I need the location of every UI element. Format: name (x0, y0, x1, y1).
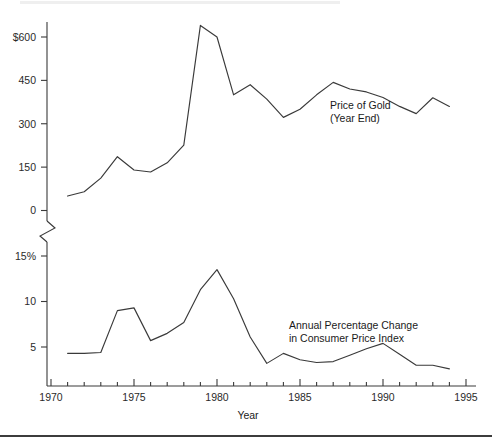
x-tick-label: 1990 (371, 391, 395, 403)
annotation-cpi-line1: Annual Percentage Change (289, 319, 418, 331)
y-tick-label-gold: 0 (30, 204, 36, 216)
y-tick-label-gold: 450 (18, 74, 36, 86)
annotation-gold-line1: Price of Gold (330, 99, 391, 111)
x-axis-title: Year (237, 409, 259, 421)
clipped-title-artifact (20, 1, 340, 4)
y-axis (40, 22, 55, 386)
x-tick-label: 1995 (454, 391, 478, 403)
annotation-cpi-line2: in Consumer Price Index (289, 332, 405, 344)
y-axis-ticks-cpi: 51015% (15, 250, 47, 353)
x-tick-label: 1980 (205, 391, 229, 403)
bottom-rule (0, 435, 492, 438)
x-axis-ticks: 197019751980198519901995 (39, 379, 478, 403)
series-line-price-of-gold (68, 25, 450, 196)
y-tick-label-gold: 300 (18, 118, 36, 130)
gold-cpi-dual-panel-line-chart: 0150300450$600 51015% 197019751980198519… (0, 0, 492, 440)
x-tick-label: 1985 (288, 391, 312, 403)
y-tick-label-cpi: 5 (30, 341, 36, 353)
y-tick-label-cpi: 10 (24, 295, 36, 307)
annotation-gold-line2: (Year End) (330, 112, 380, 124)
y-tick-label-gold: $600 (13, 31, 37, 43)
annotation-consumer-price-index: Annual Percentage Change in Consumer Pri… (289, 319, 418, 344)
chart-figure: 0150300450$600 51015% 197019751980198519… (0, 0, 492, 440)
x-tick-label: 1970 (39, 391, 63, 403)
y-tick-label-cpi: 15% (15, 250, 36, 262)
x-tick-label: 1975 (122, 391, 146, 403)
y-tick-label-gold: 150 (18, 161, 36, 173)
y-axis-ticks-gold: 0150300450$600 (13, 31, 47, 217)
annotation-price-of-gold: Price of Gold (Year End) (330, 99, 391, 124)
